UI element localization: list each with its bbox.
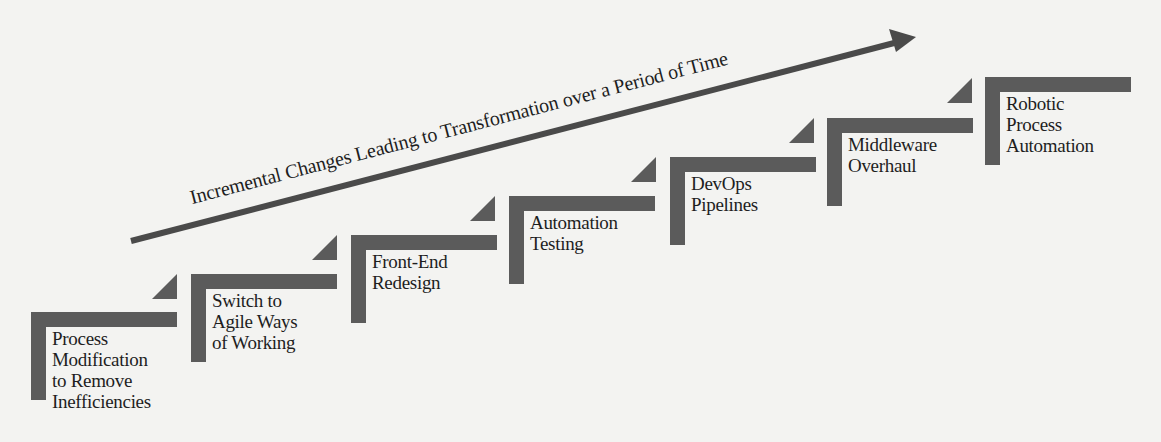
step-2: Switch to Agile Ways of Working xyxy=(191,274,337,364)
step-1: Process Modification to Remove Inefficie… xyxy=(31,312,177,402)
step-side-bar xyxy=(31,312,46,400)
staircase-diagram: Incremental Changes Leading to Transform… xyxy=(0,0,1161,442)
step-top-bar xyxy=(31,312,177,327)
step-top-bar xyxy=(351,235,497,250)
step-top-bar xyxy=(985,77,1131,92)
step-label-line: Automation xyxy=(530,212,618,233)
step-side-bar xyxy=(985,77,1000,165)
step-side-bar xyxy=(670,157,685,245)
step-label-line: Front-End xyxy=(372,251,447,272)
step-4: Automation Testing xyxy=(509,196,655,286)
step-side-bar xyxy=(351,235,366,323)
step-label-line: Process xyxy=(52,328,151,349)
step-label: Switch to Agile Ways of Working xyxy=(212,290,297,353)
step-label-line: of Working xyxy=(212,332,297,353)
step-connector-triangle xyxy=(470,196,495,221)
step-label-line: Agile Ways xyxy=(212,311,297,332)
step-label: DevOps Pipelines xyxy=(691,173,758,215)
step-label-line: Redesign xyxy=(372,272,447,293)
step-label: Robotic Process Automation xyxy=(1006,93,1094,156)
step-label-line: Process xyxy=(1006,114,1094,135)
step-label-line: Automation xyxy=(1006,135,1094,156)
step-label-line: Testing xyxy=(530,233,618,254)
step-6: Middleware Overhaul xyxy=(827,118,973,208)
step-side-bar xyxy=(827,118,842,206)
step-top-bar xyxy=(670,157,816,172)
step-label-line: to Remove xyxy=(52,370,151,391)
step-label: Front-End Redesign xyxy=(372,251,447,293)
step-5: DevOps Pipelines xyxy=(670,157,816,247)
step-label-line: Middleware xyxy=(848,134,937,155)
arrow-head-icon xyxy=(889,29,916,52)
step-3: Front-End Redesign xyxy=(351,235,497,325)
step-side-bar xyxy=(509,196,524,284)
step-top-bar xyxy=(827,118,973,133)
step-label-line: Inefficiencies xyxy=(52,391,151,412)
step-connector-triangle xyxy=(631,157,656,182)
step-label: Process Modification to Remove Inefficie… xyxy=(52,328,151,412)
step-label-line: Overhaul xyxy=(848,155,937,176)
step-side-bar xyxy=(191,274,206,362)
step-label-line: DevOps xyxy=(691,173,758,194)
step-label-line: Pipelines xyxy=(691,194,758,215)
step-connector-triangle xyxy=(947,78,972,103)
step-connector-triangle xyxy=(312,235,337,260)
step-label: Automation Testing xyxy=(530,212,618,254)
step-top-bar xyxy=(191,274,337,289)
step-top-bar xyxy=(509,196,655,211)
step-label-line: Robotic xyxy=(1006,93,1094,114)
step-label-line: Modification xyxy=(52,349,151,370)
step-label: Middleware Overhaul xyxy=(848,134,937,176)
step-7: Robotic Process Automation xyxy=(985,77,1131,167)
step-connector-triangle xyxy=(152,274,177,299)
arrow-label: Incremental Changes Leading to Transform… xyxy=(187,47,729,208)
step-connector-triangle xyxy=(789,118,814,143)
step-label-line: Switch to xyxy=(212,290,297,311)
